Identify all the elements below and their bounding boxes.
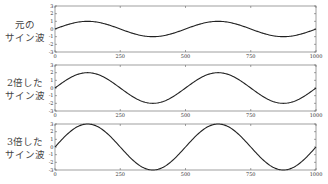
plot-1-ytick-label: 1 — [50, 18, 53, 24]
plot-2-ytick-label: 0 — [50, 85, 53, 91]
plot-1-xtick-label: 250 — [115, 53, 125, 59]
plot-3-ytick-label: 0 — [50, 144, 53, 150]
sine-wave-charts: -3-2-1012302505007501000-3-2-10123025050… — [0, 0, 328, 184]
plot-3-ytick-label: 3 — [50, 121, 53, 127]
plot-3-ytick-label: 1 — [50, 136, 53, 142]
plot-1-ytick-label: -1 — [49, 33, 54, 39]
plot-3-xtick-label: 750 — [246, 171, 256, 177]
plot-3-xtick-label: 500 — [181, 171, 191, 177]
plot-2-xtick-label: 500 — [181, 112, 191, 118]
plot-1-ytick-label: 0 — [50, 26, 53, 32]
plot-3-ytick-label: -1 — [49, 151, 54, 157]
plot-3-ytick-label: -2 — [49, 159, 54, 165]
plot-2-ytick-label: -2 — [49, 100, 54, 106]
plot-2-xtick-label: 0 — [53, 112, 56, 118]
plot-2-ytick-label: 2 — [50, 69, 53, 75]
plot-1-sine-line — [55, 21, 316, 36]
plot-1-xtick-label: 1000 — [310, 53, 323, 59]
plot-2-xtick-label: 1000 — [310, 112, 323, 118]
plot-1-ytick-label: -2 — [49, 41, 54, 47]
plot-2-xtick-label: 750 — [246, 112, 256, 118]
plot-1-ytick-label: 2 — [50, 10, 53, 16]
plot-2-ytick-label: 1 — [50, 77, 53, 83]
plot-3-xtick-label: 250 — [115, 171, 125, 177]
plot-2-ytick-label: 3 — [50, 62, 53, 68]
plot-2-sine-line — [55, 73, 316, 104]
plot-2-xtick-label: 250 — [115, 112, 125, 118]
plot-1-ytick-label: 3 — [50, 3, 53, 9]
plot-3-xtick-label: 1000 — [310, 171, 323, 177]
plot-1-xtick-label: 750 — [246, 53, 256, 59]
plot-1-xtick-label: 500 — [181, 53, 191, 59]
plot-3-xtick-label: 0 — [53, 171, 56, 177]
plot-1-xtick-label: 0 — [53, 53, 56, 59]
plot-2-ytick-label: -1 — [49, 92, 54, 98]
plot-3-sine-line — [55, 124, 316, 170]
plot-3-ytick-label: 2 — [50, 128, 53, 134]
